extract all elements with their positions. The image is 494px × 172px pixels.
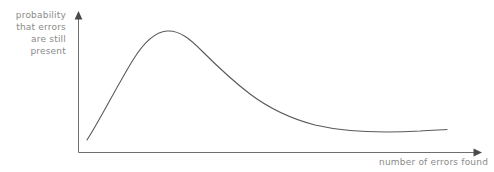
y-axis-arrowhead-icon (75, 11, 83, 20)
x-axis-label: number of errors found (379, 156, 488, 168)
y-axis-label: probability that errors are still presen… (0, 9, 66, 57)
probability-of-errors-chart: probability that errors are still presen… (0, 0, 494, 172)
chart-plot-area (0, 0, 494, 172)
error-probability-curve (87, 31, 447, 140)
